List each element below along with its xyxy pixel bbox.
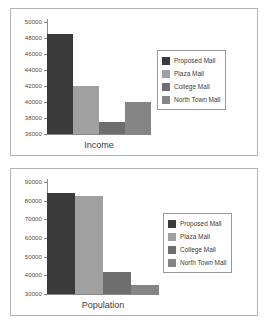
legend-item: Proposed Mall	[168, 218, 226, 229]
bar	[99, 122, 125, 134]
y-axis-tick-label: 46000	[13, 51, 42, 57]
y-axis-tick-label: 30000	[13, 291, 42, 297]
bar	[103, 272, 131, 294]
income-axis-title: Income	[47, 140, 151, 150]
bar	[75, 196, 103, 294]
x-axis-line	[47, 134, 151, 135]
legend-item: College Mall	[162, 81, 220, 92]
bar	[47, 34, 73, 134]
x-axis-line	[47, 294, 159, 295]
legend-item: Plaza Mall	[162, 68, 220, 79]
legend-swatch-icon	[168, 220, 176, 228]
legend-swatch-icon	[162, 70, 170, 78]
y-axis-tick	[44, 134, 48, 135]
legend-item-label: North Town Mall	[180, 259, 226, 267]
y-axis-tick-label: 40000	[13, 272, 42, 278]
y-axis-tick	[44, 182, 48, 183]
legend-item-label: Plaza Mall	[174, 70, 204, 78]
bar	[73, 86, 99, 134]
legend-item-label: Plaza Mall	[180, 233, 210, 241]
legend-swatch-icon	[162, 57, 170, 65]
legend-item: College Mall	[168, 244, 226, 255]
legend-item: North Town Mall	[162, 94, 220, 105]
legend-item-label: Proposed Mall	[180, 220, 222, 228]
legend-item-label: College Mall	[180, 246, 216, 254]
y-axis-tick-label: 80000	[13, 198, 42, 204]
y-axis-tick-label: 50000	[13, 254, 42, 260]
y-axis-tick-label: 42000	[13, 83, 42, 89]
population-chart-panel: 30000400005000060000700008000090000 Popu…	[10, 168, 258, 316]
y-axis-tick-label: 44000	[13, 67, 42, 73]
legend-swatch-icon	[168, 233, 176, 241]
y-axis-tick-label: 40000	[13, 99, 42, 105]
legend-item-label: North Town Mall	[174, 96, 220, 104]
legend-swatch-icon	[162, 96, 170, 104]
legend-swatch-icon	[162, 83, 170, 91]
income-legend: Proposed MallPlaza MallCollege MallNorth…	[157, 50, 226, 110]
y-axis-tick-label: 70000	[13, 216, 42, 222]
population-legend: Proposed MallPlaza MallCollege MallNorth…	[163, 213, 232, 273]
legend-item: Plaza Mall	[168, 231, 226, 242]
legend-item: Proposed Mall	[162, 55, 220, 66]
y-axis-tick-label: 38000	[13, 115, 42, 121]
y-axis-tick	[44, 294, 48, 295]
chart-page: 3600038000400004200044000460004800050000…	[0, 0, 268, 324]
legend-item-label: College Mall	[174, 83, 210, 91]
population-axis-title: Population	[47, 300, 159, 310]
y-axis-tick-label: 90000	[13, 179, 42, 185]
income-chart-panel: 3600038000400004200044000460004800050000…	[10, 8, 258, 156]
legend-item-label: Proposed Mall	[174, 57, 216, 65]
legend-swatch-icon	[168, 246, 176, 254]
legend-swatch-icon	[168, 259, 176, 267]
y-axis-tick-label: 60000	[13, 235, 42, 241]
y-axis-tick-label: 36000	[13, 131, 42, 137]
y-axis-tick	[44, 22, 48, 23]
bar	[131, 285, 159, 294]
y-axis-tick-label: 48000	[13, 35, 42, 41]
legend-item: North Town Mall	[168, 257, 226, 268]
bar	[125, 102, 151, 134]
bar	[47, 193, 75, 294]
y-axis-tick-label: 50000	[13, 19, 42, 25]
